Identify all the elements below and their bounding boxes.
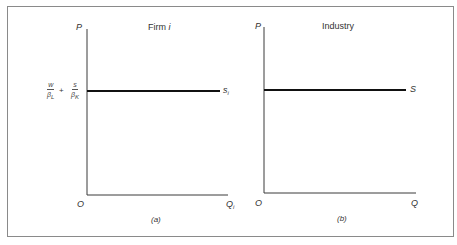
panel-a-title-var: i (169, 22, 171, 32)
panel-a-y-axis-label: P (76, 23, 82, 32)
price-label-s: s (72, 81, 78, 90)
price-label-k-sub: K (75, 94, 79, 100)
panel-a-caption: (a) (151, 216, 161, 224)
panel-a-x-axis-q: Q (226, 199, 233, 209)
panel-b-curve-label: S (410, 85, 416, 94)
price-label-plus: + (59, 87, 64, 95)
panel-a-curve-label-sub: i (228, 90, 229, 96)
panel-b-caption: (b) (337, 215, 347, 223)
panel-a-x-axis-sub: i (233, 204, 234, 210)
price-label-l-sub: L (51, 94, 54, 100)
panel-a-title-word: Firm (148, 22, 166, 32)
panel-a-curve-label: si (223, 86, 229, 96)
panel-a-title: Firm i (148, 23, 171, 32)
panel-b-title: Industry (322, 22, 354, 31)
price-label-s-over-beta-k: s βK (71, 81, 79, 100)
panel-b-x-axis-label: Q (411, 199, 418, 208)
panel-b-origin-label: O (255, 199, 262, 208)
panel-a-x-axis-label: Qi (226, 200, 234, 210)
price-label-w: w (47, 81, 54, 90)
panel-b-y-axis-label: P (255, 22, 261, 31)
price-label-w-over-beta-l: w βL (47, 81, 54, 100)
panel-a-origin-label: O (77, 200, 84, 209)
